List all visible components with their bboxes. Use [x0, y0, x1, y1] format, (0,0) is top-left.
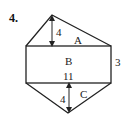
composite-figure: 4. 4 4 A B C 11 3 [0, 0, 123, 138]
bottom-height-label: 4 [60, 93, 66, 105]
region-c-label: C [80, 88, 87, 100]
rect-height-label: 3 [115, 56, 121, 68]
triangle-a-outline [26, 15, 111, 46]
problem-number: 4. [9, 11, 18, 25]
region-a-label: A [74, 34, 82, 46]
region-b-label: B [65, 55, 72, 67]
top-height-label: 4 [56, 26, 62, 38]
rect-width-label: 11 [63, 70, 74, 82]
